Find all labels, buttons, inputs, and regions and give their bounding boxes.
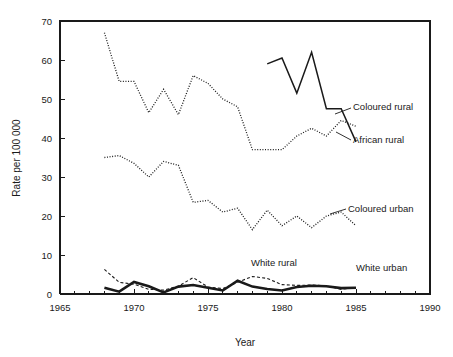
x-axis-title: Year (235, 337, 256, 348)
y-axis-major-ticks (60, 21, 65, 294)
y-tick-label: 0 (47, 289, 52, 300)
chart-figure: 196519701975198019851990 010203040506070… (0, 0, 453, 357)
series-label-african-rural: African rural (353, 134, 404, 145)
x-tick-label: 1990 (419, 302, 440, 313)
x-tick-label: 1965 (49, 302, 70, 313)
series-line-african-rural (267, 52, 356, 142)
axes-group (60, 21, 430, 294)
series-label-white-rural: White rural (251, 257, 297, 268)
x-axis-tick-labels: 196519701975198019851990 (49, 302, 440, 313)
x-tick-label: 1985 (345, 302, 366, 313)
y-axis-tick-labels: 010203040506070 (41, 16, 52, 300)
y-tick-label: 20 (41, 211, 52, 222)
series-line-coloured-rural (104, 33, 356, 150)
annotation-leader-line (330, 209, 346, 214)
y-tick-label: 60 (41, 55, 52, 66)
axis-frame (60, 21, 430, 294)
chart-canvas: 196519701975198019851990 010203040506070… (0, 0, 453, 357)
y-axis-title: Rate per 100 000 (11, 119, 22, 197)
y-tick-label: 50 (41, 94, 52, 105)
series-label-white-urban: White urban (356, 262, 407, 273)
annotation-leader-line (336, 132, 351, 140)
y-tick-label: 70 (41, 16, 52, 27)
y-tick-label: 30 (41, 172, 52, 183)
series-group (104, 33, 356, 293)
y-tick-label: 40 (41, 133, 52, 144)
series-line-coloured-urban (104, 156, 356, 230)
x-tick-label: 1980 (271, 302, 292, 313)
x-tick-label: 1975 (197, 302, 218, 313)
series-label-coloured-urban: Coloured urban (348, 203, 414, 214)
x-tick-label: 1970 (123, 302, 144, 313)
y-tick-label: 10 (41, 250, 52, 261)
series-label-coloured-rural: Coloured rural (353, 101, 413, 112)
series-annotations: Coloured ruralAfrican ruralColoured urba… (251, 101, 414, 273)
